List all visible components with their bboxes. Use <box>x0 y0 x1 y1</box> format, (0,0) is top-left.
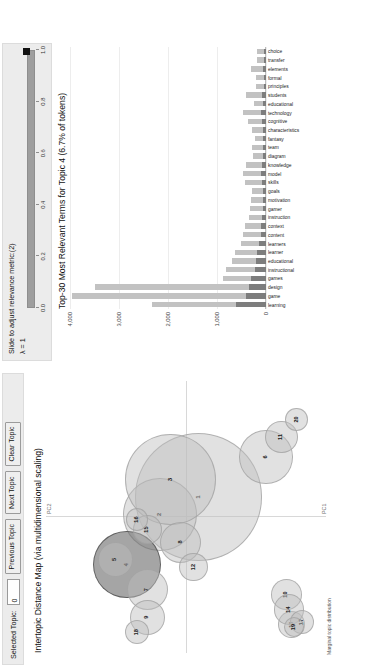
bar-item[interactable]: cognitive <box>70 119 266 124</box>
bar-item[interactable]: model <box>70 171 266 176</box>
bar-item[interactable]: formal <box>70 75 266 80</box>
relevance-slider-handle[interactable] <box>23 48 30 55</box>
bar-item[interactable]: learner <box>70 250 266 255</box>
slider-tick <box>36 307 39 308</box>
bar-topic-frequency <box>262 215 266 220</box>
bar-topic-frequency <box>263 145 266 150</box>
bar-term-label: knowledge <box>268 162 291 167</box>
intertopic-map-title: Intertopic Distance Map (via multidimens… <box>33 448 43 653</box>
bar-term-label: learners <box>268 241 286 246</box>
map-y-axis-label: PC2 <box>46 504 52 515</box>
bar-item[interactable]: learners <box>70 241 266 246</box>
bar-item[interactable]: learning <box>70 302 266 307</box>
bar-item[interactable]: game <box>70 293 266 298</box>
bar-topic-frequency <box>262 180 266 185</box>
slider-tick-label: 0.0 <box>40 304 46 312</box>
next-topic-button[interactable]: Next Topic <box>5 471 21 514</box>
topic-bubble-label: 12 <box>191 564 197 570</box>
bar-item[interactable]: design <box>70 284 266 289</box>
bar-term-label: goals <box>268 189 280 194</box>
bar-item[interactable]: transfer <box>70 57 266 62</box>
topic-bubble[interactable]: 16 <box>126 508 149 531</box>
topic-bubble[interactable]: 19 <box>284 617 305 638</box>
previous-topic-button[interactable]: Previous Topic <box>5 519 21 574</box>
bar-item[interactable]: principles <box>70 84 266 89</box>
topic-bubble[interactable]: 20 <box>285 408 308 431</box>
bar-item[interactable]: content <box>70 232 266 237</box>
bar-topic-frequency <box>263 136 266 141</box>
bar-topic-frequency <box>263 188 266 193</box>
bar-term-label: fantasy <box>268 136 284 141</box>
bar-item[interactable]: technology <box>70 110 266 115</box>
bar-item[interactable]: skills <box>70 180 266 185</box>
barchart-y-tick-label: 0 <box>263 309 269 334</box>
relevant-terms-title: Top-30 Most Relevant Terms for Topic 4 (… <box>57 93 67 309</box>
slider-tick <box>36 204 39 205</box>
bar-topic-frequency <box>264 84 266 89</box>
bar-item[interactable]: motivation <box>70 197 266 202</box>
bar-item[interactable]: characteristics <box>70 127 266 132</box>
bar-topic-frequency <box>249 284 266 289</box>
bar-topic-frequency <box>256 258 266 263</box>
bar-item[interactable]: choice <box>70 49 266 54</box>
bar-term-label: team <box>268 145 279 150</box>
bar-item[interactable]: diagram <box>70 153 266 158</box>
topic-bubble[interactable]: 5 <box>98 542 133 577</box>
bar-term-label: technology <box>268 110 292 115</box>
topic-bubble[interactable]: 12 <box>179 553 208 582</box>
topic-bubble-label: 11 <box>279 434 285 440</box>
topic-bubble-label: 15 <box>145 526 151 532</box>
relevant-terms-barchart[interactable]: 01,0002,0003,0004,000learninggamedesigng… <box>70 47 266 309</box>
bar-item[interactable]: instructional <box>70 267 266 272</box>
topic-bubble-label: 3 <box>168 478 174 481</box>
bar-item[interactable]: educational <box>70 101 266 106</box>
bar-term-label: characteristics <box>268 127 299 132</box>
topic-bubble-label: 14 <box>286 606 292 612</box>
bar-term-label: instructional <box>268 267 294 272</box>
slider-tick-label: 0.2 <box>40 252 46 260</box>
relevant-terms-panel: Slide to adjust relevance metric:(2) λ =… <box>0 35 336 369</box>
bar-topic-frequency <box>262 162 266 167</box>
topic-bubble-label: 8 <box>178 540 184 543</box>
bar-term-label: principles <box>268 84 289 89</box>
marginal-topic-distribution-note: Marginal topic distribution <box>326 598 332 655</box>
bar-item[interactable]: goals <box>70 188 266 193</box>
bar-term-label: games <box>268 276 283 281</box>
relevance-slider-track[interactable] <box>27 50 35 308</box>
relevance-slider-label: Slide to adjust relevance metric:(2) <box>7 243 16 354</box>
bar-topic-frequency <box>263 206 266 211</box>
slider-tick-label: 0.8 <box>40 98 46 106</box>
topic-bubble[interactable]: 18 <box>125 620 150 645</box>
bar-item[interactable]: elements <box>70 66 266 71</box>
bar-item[interactable]: educational <box>70 258 266 263</box>
bar-topic-frequency <box>263 197 266 202</box>
bar-item[interactable]: gamer <box>70 206 266 211</box>
bar-topic-frequency <box>263 66 266 71</box>
bar-item[interactable]: fantasy <box>70 136 266 141</box>
slider-tick <box>36 255 39 256</box>
bar-item[interactable]: instruction <box>70 215 266 220</box>
bar-term-label: cognitive <box>268 119 287 124</box>
bar-topic-frequency <box>263 153 266 158</box>
bar-item[interactable]: games <box>70 276 266 281</box>
intertopic-map-panel: Selected Topic: 0 Previous Topic Next To… <box>0 369 336 669</box>
bar-item[interactable]: context <box>70 223 266 228</box>
clear-topic-button[interactable]: Clear Topic <box>5 422 21 467</box>
barchart-y-tick-label: 4,000 <box>67 309 73 334</box>
bar-term-label: instruction <box>268 215 290 220</box>
bar-item[interactable]: students <box>70 92 266 97</box>
intertopic-map-plot[interactable]: PC1 PC2 1234567891011121314151617181920 <box>46 381 326 653</box>
bar-topic-frequency <box>251 276 266 281</box>
bar-term-label: design <box>268 285 282 290</box>
selected-topic-input[interactable]: 0 <box>7 579 20 605</box>
bar-item[interactable]: team <box>70 145 266 150</box>
bar-term-label: choice <box>268 49 282 54</box>
bar-term-label: students <box>268 93 287 98</box>
bar-topic-frequency <box>263 127 266 132</box>
bar-item[interactable]: knowledge <box>70 162 266 167</box>
bar-topic-frequency <box>262 92 266 97</box>
bar-topic-frequency <box>236 302 266 307</box>
map-x-axis-label: PC1 <box>321 504 327 515</box>
slider-tick <box>36 49 39 50</box>
bar-term-label: learner <box>268 250 283 255</box>
